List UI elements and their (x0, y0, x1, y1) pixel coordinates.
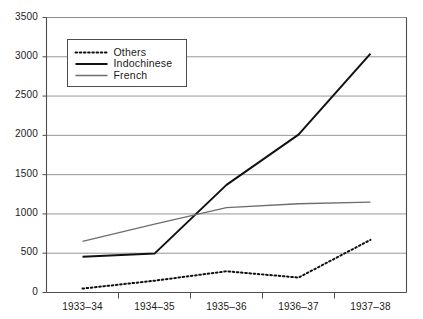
ytick-label-3500: 3500 (2, 11, 38, 22)
ytick-label-2000: 2000 (2, 128, 38, 139)
chart-plot-area (0, 0, 423, 319)
ytick-label-3000: 3000 (2, 50, 38, 61)
legend-label-indochinese: Indochinese (114, 57, 173, 69)
ytick-label-2500: 2500 (2, 89, 38, 100)
ytick-label-1000: 1000 (2, 207, 38, 218)
ytick-label-500: 500 (2, 246, 38, 257)
ytick-label-1500: 1500 (2, 168, 38, 179)
xtick-label-2: 1935–36 (192, 301, 262, 312)
xtick-label-4: 1937–38 (336, 301, 406, 312)
xtick-label-1: 1934–35 (120, 301, 190, 312)
legend-label-others: Others (114, 46, 147, 58)
series-line-french (83, 202, 371, 241)
ytick-label-0: 0 (2, 286, 38, 297)
xtick-label-3: 1936–37 (264, 301, 334, 312)
legend-label-french: French (114, 69, 148, 81)
series-line-others (83, 240, 371, 289)
line-chart: 05001000150020002500300035001933–341934–… (0, 0, 423, 319)
xtick-label-0: 1933–34 (48, 301, 118, 312)
